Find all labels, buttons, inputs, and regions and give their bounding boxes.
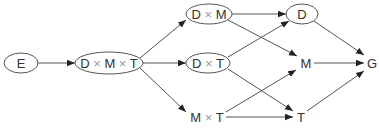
node-mt: M × T [190,110,223,125]
edge-dmt-to-dm [140,20,186,58]
edge-dt-to-d [228,21,289,57]
times-symbol: × [201,110,216,125]
node-g: G [367,56,377,71]
node-label: D × M × T [80,56,138,71]
node-label: D × T [192,56,224,71]
node-dmt: D × M × T [75,52,143,74]
node-m: M [301,56,312,71]
edge-t-to-g [307,71,364,111]
node-dm: D × M [186,4,232,24]
node-dt: D × T [186,53,230,73]
product-lattice-diagram: ED × M × TD × MD × TM × TDMTG [0,0,379,138]
node-label: D [297,7,306,22]
edge-d-to-g [314,21,364,55]
node-t: T [297,110,305,125]
node-label: D × M [191,7,226,22]
node-label: M × T [190,110,223,125]
times-symbol: × [201,56,216,71]
times-symbol: × [90,56,105,71]
node-label: E [17,56,26,71]
nodes-layer: ED × M × TD × MD × TM × TDMTG [4,4,377,125]
times-symbol: × [201,7,216,22]
node-label: M [301,56,312,71]
edge-dmt-to-mt [140,68,186,112]
node-label: G [367,56,377,71]
node-label: T [297,110,305,125]
node-e: E [4,53,38,73]
node-d: D [286,4,318,24]
times-symbol: × [115,56,130,71]
